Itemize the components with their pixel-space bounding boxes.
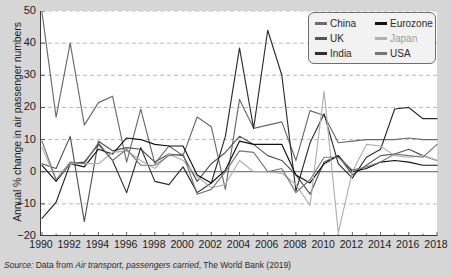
figure-container: Annual % change in air passenger numbers…	[0, 0, 451, 278]
legend-item-india[interactable]: India	[315, 46, 356, 61]
legend-swatch-icon	[375, 52, 387, 55]
legend-swatch-icon	[375, 37, 387, 40]
x-axis-ticks: 1990199219941996199820002002200420062008…	[40, 238, 440, 254]
legend-column-1: ChinaUKIndia	[315, 16, 356, 61]
x-tick-label: 2002	[199, 238, 222, 250]
legend-item-japan[interactable]: Japan	[375, 31, 433, 46]
x-tick-label: 1992	[58, 238, 81, 250]
x-tick-label: 2012	[340, 238, 363, 250]
x-tick-label: 2004	[227, 238, 250, 250]
caption-text-before: Data from	[33, 260, 75, 270]
legend-item-china[interactable]: China	[315, 16, 356, 31]
legend-swatch-icon	[315, 37, 327, 40]
series-line-japan	[42, 91, 437, 232]
legend-item-eurozone[interactable]: Eurozone	[375, 16, 433, 31]
legend-label: USA	[390, 49, 411, 59]
caption-work-title: Air transport, passengers carried	[75, 260, 198, 270]
y-tick-label: 50	[10, 5, 36, 16]
caption-source-word: Source:	[4, 260, 33, 270]
x-tick-label: 1996	[114, 238, 137, 250]
legend-label: India	[330, 49, 352, 59]
legend-item-uk[interactable]: UK	[315, 31, 356, 46]
x-tick-label: 2008	[283, 238, 306, 250]
x-tick-label: 2006	[255, 238, 278, 250]
source-caption: Source: Data from Air transport, passeng…	[4, 260, 291, 271]
y-tick-label: 10	[10, 134, 36, 145]
legend-column-2: EurozoneJapanUSA	[375, 16, 433, 61]
legend-label: China	[330, 19, 356, 29]
x-tick-label: 2000	[170, 238, 193, 250]
legend-label: UK	[330, 34, 344, 44]
x-tick-label: 2018	[424, 238, 447, 250]
x-tick-label: 2010	[311, 238, 334, 250]
partial-title	[0, 0, 451, 6]
y-tick-label: −10	[10, 198, 36, 209]
x-tick-label: 1998	[142, 238, 165, 250]
legend-item-usa[interactable]: USA	[375, 46, 433, 61]
y-axis-ticks: 50403020100−10−20	[8, 0, 36, 278]
x-tick-label: 1994	[86, 238, 109, 250]
chart-legend[interactable]: ChinaUKIndiaEurozoneJapanUSA	[308, 12, 436, 64]
caption-text-after: , The World Bank (2019)	[199, 260, 291, 270]
x-tick-label: 2014	[368, 238, 391, 250]
series-line-uk	[42, 136, 437, 221]
legend-swatch-icon	[315, 52, 327, 55]
x-tick-label: 2016	[396, 238, 419, 250]
x-tick-label: 1990	[29, 238, 52, 250]
legend-swatch-icon	[315, 22, 327, 25]
legend-label: Japan	[390, 34, 417, 44]
y-tick-label: 40	[10, 37, 36, 48]
series-line-usa	[42, 141, 437, 194]
y-tick-label: 30	[10, 69, 36, 80]
y-tick-label: 0	[10, 166, 36, 177]
y-tick-label: 20	[10, 101, 36, 112]
legend-label: Eurozone	[390, 19, 433, 29]
legend-swatch-icon	[375, 22, 387, 25]
